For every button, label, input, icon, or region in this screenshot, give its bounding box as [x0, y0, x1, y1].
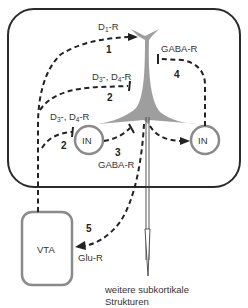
pathway-collateral-right — [150, 126, 180, 141]
label-num-5: 5 — [86, 223, 92, 234]
pathway-vta-trunk — [38, 37, 130, 212]
label-in-left: IN — [82, 135, 92, 146]
label-num-1: 1 — [106, 44, 112, 55]
arrowhead-collateral — [180, 137, 190, 145]
label-output-line2: Strukturen — [105, 296, 149, 307]
label-in-right: IN — [198, 135, 208, 146]
inhibit-bar-2-lower — [72, 127, 73, 137]
label-vta: VTA — [37, 244, 55, 255]
label-output-line1: weitere subkortikale — [104, 284, 189, 295]
arrowhead-5 — [75, 241, 86, 250]
label-gaba-r-3: GABA-R — [98, 159, 135, 170]
label-num-3: 3 — [115, 147, 121, 158]
label-d3-d4-r-upper: D3-, D4-R — [92, 71, 132, 83]
label-gaba-r-4: GABA-R — [161, 43, 198, 54]
axon — [145, 117, 150, 276]
label-num-2-upper: 2 — [107, 92, 113, 103]
label-glu-r: Glu-R — [78, 252, 103, 263]
pathway-4 — [160, 59, 205, 126]
label-num-2-lower: 2 — [61, 140, 67, 151]
neural-circuit-diagram: D1-R 1 GABA-R 4 D3-, D4-R 2 D3-, D4-R 2 … — [0, 0, 248, 308]
pathway-2-lower — [42, 132, 72, 148]
label-d1-r: D1-R — [98, 21, 119, 33]
pathway-2-upper — [40, 86, 128, 110]
inhibit-bar-2-upper — [129, 81, 130, 91]
label-num-4: 4 — [174, 69, 180, 80]
label-d3-d4-r-lower: D3-, D4-R — [50, 111, 90, 123]
pathway-3 — [104, 128, 130, 141]
